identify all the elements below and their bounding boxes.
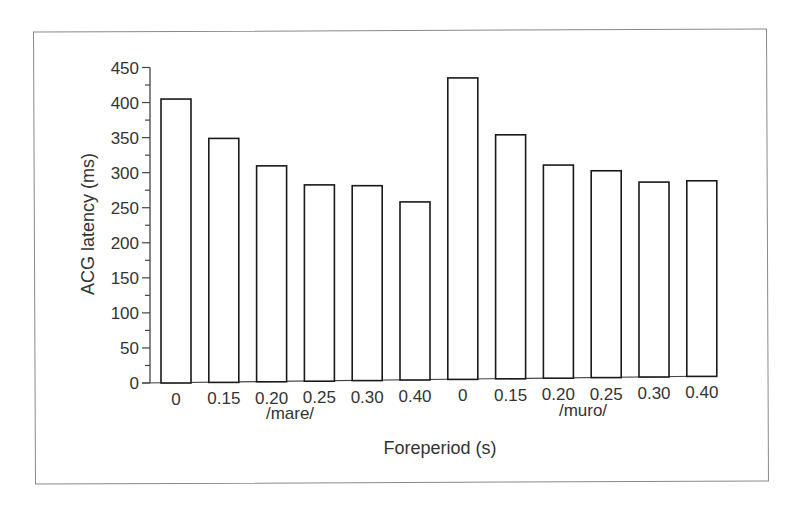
x-tick-label: 0.30 [351, 388, 384, 407]
x-tick-label: 0.15 [494, 386, 527, 405]
bar [496, 135, 526, 379]
bar [448, 78, 478, 379]
bar [257, 166, 287, 382]
y-tick-label: 300 [111, 164, 139, 183]
x-axis-title: Foreperiod (s) [383, 438, 496, 458]
y-tick-label: 350 [111, 129, 139, 148]
y-tick-label: 400 [111, 94, 139, 113]
bars [161, 78, 717, 383]
y-tick-label: 150 [111, 269, 139, 288]
x-tick-label: 0.15 [207, 389, 240, 408]
bar-chart: 050100150200250300350400450 00.150.200.2… [0, 0, 797, 505]
bar [639, 182, 669, 377]
bar [352, 186, 382, 381]
bar [304, 185, 334, 381]
y-tick-label: 450 [111, 59, 139, 78]
x-tick-label: 0 [458, 386, 467, 405]
chart-figure: 050100150200250300350400450 00.150.200.2… [0, 0, 797, 505]
bar [400, 202, 430, 380]
x-tick-label: 0.30 [637, 384, 670, 403]
bar [687, 181, 717, 377]
group-label: /mare/ [266, 404, 314, 423]
y-tick-label: 200 [111, 234, 139, 253]
y-tick-label: 50 [120, 339, 139, 358]
x-tick-label: 0.40 [398, 387, 431, 406]
x-tick-label: 0.40 [685, 383, 718, 402]
bar [543, 165, 573, 378]
y-tick-label: 0 [130, 374, 139, 393]
x-axis-tick-labels: 00.150.200.250.300.4000.150.200.250.300.… [171, 383, 718, 409]
bar [591, 171, 621, 378]
x-tick-label: 0 [171, 390, 180, 409]
group-label: /muro/ [559, 401, 607, 420]
bar [209, 138, 239, 382]
y-tick-label: 100 [111, 304, 139, 323]
y-axis-title: ACG latency (ms) [78, 153, 98, 295]
bar [161, 99, 191, 383]
y-tick-label: 250 [111, 199, 139, 218]
